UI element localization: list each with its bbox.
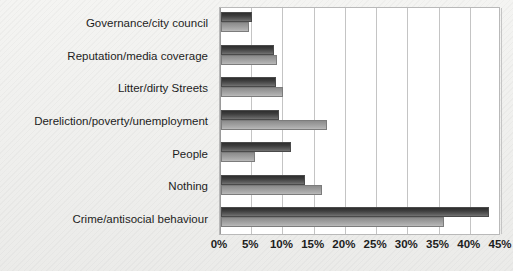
bar-series1 bbox=[221, 77, 276, 87]
bar-group bbox=[220, 171, 499, 204]
bar-group bbox=[220, 138, 499, 171]
bar-series1 bbox=[221, 207, 489, 217]
bar-series2 bbox=[221, 152, 255, 162]
category-axis-labels: Governance/city councilReputation/media … bbox=[0, 7, 214, 235]
x-tick-label: 5% bbox=[242, 238, 259, 250]
category-label: Reputation/media coverage bbox=[67, 40, 208, 73]
category-label: Dereliction/poverty/unemployment bbox=[34, 105, 208, 138]
bar-series2 bbox=[221, 217, 444, 227]
category-label: Governance/city council bbox=[86, 7, 208, 40]
bar-rows bbox=[220, 8, 499, 234]
x-tick-label: 45% bbox=[488, 238, 511, 250]
category-label: Litter/dirty Streets bbox=[118, 72, 208, 105]
category-label: Crime/antisocial behaviour bbox=[72, 202, 208, 235]
category-label: People bbox=[172, 137, 208, 170]
bar-series1 bbox=[221, 142, 291, 152]
x-tick-label: 30% bbox=[395, 238, 418, 250]
x-tick-label: 25% bbox=[364, 238, 387, 250]
x-tick-label: 10% bbox=[270, 238, 293, 250]
category-label: Nothing bbox=[168, 170, 208, 203]
bar-group bbox=[220, 203, 499, 236]
bar-series1 bbox=[221, 110, 279, 120]
x-tick-label: 35% bbox=[426, 238, 449, 250]
x-axis-tick-labels: 0%5%10%15%20%25%30%35%40%45% bbox=[219, 238, 500, 258]
x-tick-label: 40% bbox=[457, 238, 480, 250]
bar-series1 bbox=[221, 45, 274, 55]
bar-series2 bbox=[221, 22, 249, 32]
bar-series2 bbox=[221, 185, 322, 195]
x-tick-label: 0% bbox=[211, 238, 228, 250]
bar-series2 bbox=[221, 120, 327, 130]
bar-series2 bbox=[221, 55, 277, 65]
bar-series1 bbox=[221, 12, 252, 22]
bar-group bbox=[220, 8, 499, 41]
x-tick-label: 20% bbox=[332, 238, 355, 250]
bar-series2 bbox=[221, 87, 283, 97]
bar-series1 bbox=[221, 175, 305, 185]
x-tick-label: 15% bbox=[301, 238, 324, 250]
bar-group bbox=[220, 73, 499, 106]
cut-off-title-remnant bbox=[118, 0, 418, 4]
gridline-45% bbox=[501, 8, 502, 234]
bar-group bbox=[220, 41, 499, 74]
bar-chart: Governance/city councilReputation/media … bbox=[0, 0, 513, 271]
bar-group bbox=[220, 106, 499, 139]
plot-area bbox=[219, 7, 500, 235]
